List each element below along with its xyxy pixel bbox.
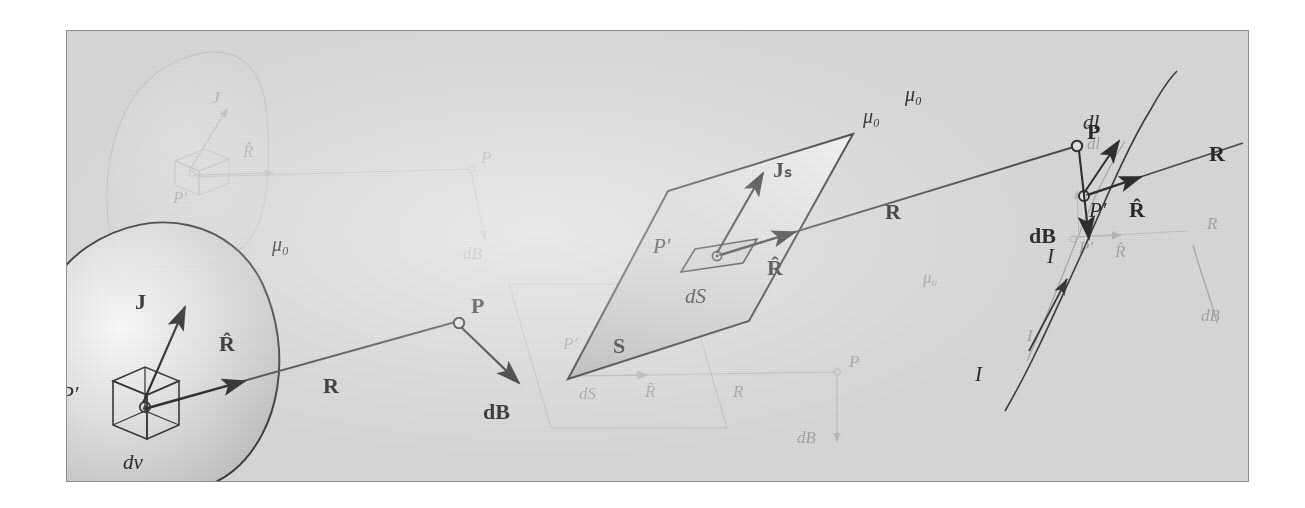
- line-mu0-label: μ₀: [904, 83, 922, 106]
- figure-canvas: J R̂ P′ P dB P′ dS R̂: [0, 0, 1305, 508]
- line-Rhat-label: R̂: [1129, 197, 1146, 222]
- volume-dB-label: dB: [483, 399, 510, 424]
- surface-Js-label: Jₛ: [773, 157, 792, 182]
- surface-Rhat-label: R̂: [767, 255, 784, 280]
- volume-R-label: R: [323, 373, 340, 398]
- surface-dS-label: dS: [685, 284, 707, 308]
- surface-Pprime-label: P′: [652, 234, 671, 258]
- volume-J-label: J: [135, 289, 146, 314]
- main-diagram-layer: μ₀ dv P′ J R̂: [67, 31, 1248, 481]
- volume-Pprime-label: P′: [67, 382, 79, 406]
- line-P-label: P: [1087, 119, 1100, 144]
- volume-P-label: P: [471, 293, 484, 318]
- volume-mu0-label: μ₀: [271, 233, 289, 256]
- line-R-label: R: [1209, 141, 1226, 166]
- volume-dv-label: dv: [123, 450, 144, 474]
- surface-mu0-label: μ₀: [862, 105, 880, 128]
- volume-Rhat-label: R̂: [219, 331, 236, 356]
- volume-current-group: μ₀ dv P′ J R̂: [67, 222, 519, 481]
- line-dB-label: dB: [1029, 223, 1056, 248]
- surface-current-group: S μ₀ dS P′ Jₛ R̂ R: [568, 105, 1077, 379]
- line-current-group: I I P′ dl R̂ R P dB: [904, 71, 1243, 411]
- figure-frame: J R̂ P′ P dB P′ dS R̂: [66, 30, 1249, 482]
- surface-R-label: R: [885, 199, 902, 224]
- surface-S-label: S: [613, 333, 625, 358]
- line-Pprime-label: P′: [1088, 198, 1107, 222]
- line-I-label-lower: I: [974, 362, 983, 386]
